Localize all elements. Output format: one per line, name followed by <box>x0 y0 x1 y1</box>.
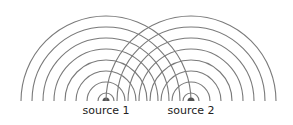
source-1-wavefronts <box>21 16 191 101</box>
wavefronts <box>0 0 293 125</box>
wavefront-arc <box>106 16 276 101</box>
source-2-label: source 2 <box>167 104 214 117</box>
source-2-wavefronts <box>106 16 276 101</box>
wavefront-arc <box>21 16 191 101</box>
source-point-icon <box>188 98 195 102</box>
source-1-label: source 1 <box>82 104 129 117</box>
interference-diagram: source 1 source 2 <box>0 0 293 125</box>
